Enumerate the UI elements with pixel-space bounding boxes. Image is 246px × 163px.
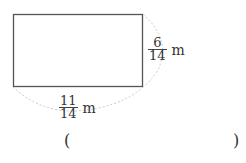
rectangle-shape: [14, 15, 143, 87]
width-unit: m: [83, 100, 96, 116]
height-unit: m: [172, 42, 185, 58]
height-label: 6 14 m: [148, 37, 185, 62]
width-label: 11 14 m: [59, 95, 96, 120]
width-denominator: 14: [59, 107, 78, 120]
height-denominator: 14: [148, 49, 167, 62]
answer-close-paren: ): [233, 131, 239, 150]
answer-open-paren: (: [64, 131, 70, 150]
answer-blank[interactable]: [74, 131, 232, 151]
